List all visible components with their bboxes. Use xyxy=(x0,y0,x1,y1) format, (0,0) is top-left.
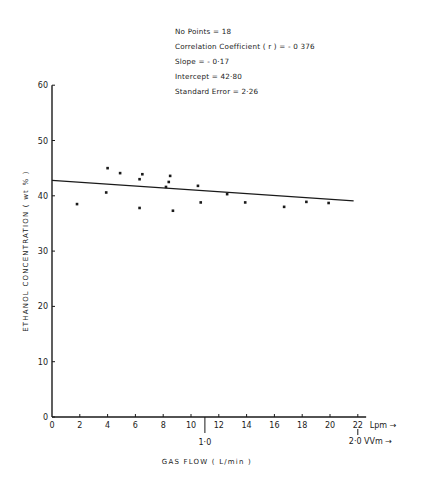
data-point xyxy=(165,186,168,189)
x-tick-label: 22 xyxy=(353,421,363,430)
y-tick-label: 20 xyxy=(38,302,48,311)
data-point xyxy=(105,191,108,194)
x-tick-label: 12 xyxy=(214,421,224,430)
y-tick-label: 40 xyxy=(38,192,48,201)
x-tick-label: 0 xyxy=(49,421,54,430)
data-point xyxy=(138,207,141,210)
vvm-tick-label: 1·0 xyxy=(199,438,212,447)
x-tick-label: 2 xyxy=(77,421,82,430)
data-point xyxy=(305,201,308,204)
x-tick-label: 8 xyxy=(161,421,166,430)
y-tick-label: 10 xyxy=(38,358,48,367)
y-axis-label: ETHANOL CONCENTRATION ( wt % ) xyxy=(22,170,30,331)
x-tick-label: 10 xyxy=(186,421,196,430)
y-tick-label: 0 xyxy=(43,413,48,422)
x-tick-label: 6 xyxy=(133,421,138,430)
y-tick-label: 30 xyxy=(38,247,48,256)
data-point xyxy=(244,201,247,204)
data-point xyxy=(169,175,172,178)
data-point xyxy=(141,173,144,176)
data-point xyxy=(199,201,202,204)
x-tick-label: 4 xyxy=(105,421,110,430)
data-point xyxy=(106,167,109,170)
y-tick-label: 50 xyxy=(38,137,48,146)
regression-line xyxy=(52,180,354,200)
x-tick-label: 16 xyxy=(269,421,279,430)
data-point xyxy=(197,185,200,188)
data-point xyxy=(76,203,79,206)
x-tick-label: 20 xyxy=(325,421,335,430)
lpm-unit-label: Lpm → xyxy=(370,421,397,430)
data-point xyxy=(138,178,141,181)
scatter-chart: 010203040506002468101214161820221·0Lpm →… xyxy=(0,0,422,488)
data-point xyxy=(327,202,330,205)
x-tick-label: 18 xyxy=(297,421,307,430)
data-point xyxy=(283,206,286,209)
vvm-unit-label: 2·0 VVm → xyxy=(349,437,393,446)
data-point xyxy=(226,193,229,196)
y-tick-label: 60 xyxy=(38,81,48,90)
data-point xyxy=(172,209,175,212)
x-tick-label: 14 xyxy=(242,421,252,430)
data-point xyxy=(119,172,122,175)
data-point xyxy=(167,181,170,184)
x-axis-label: GAS FLOW ( L/min ) xyxy=(162,458,252,466)
